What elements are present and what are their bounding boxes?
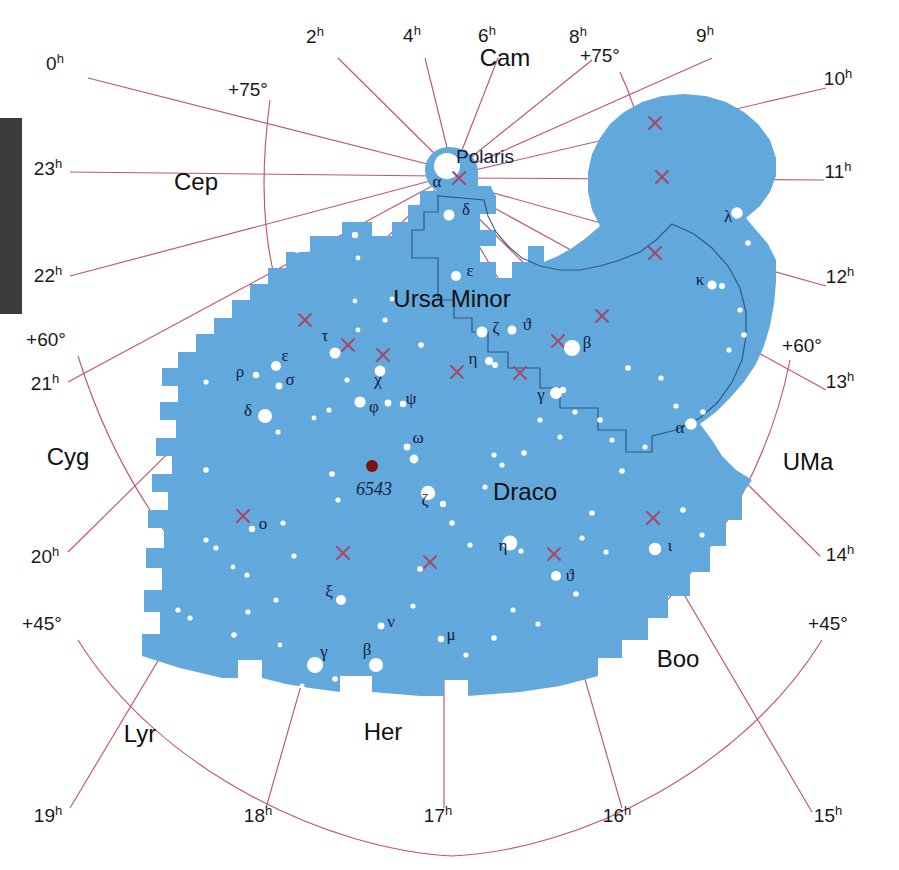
star-f31 [255, 670, 260, 675]
dec-45-left: +45° [22, 613, 62, 634]
star-dra-omicron [249, 526, 255, 532]
star-f04 [356, 256, 361, 261]
star-f55 [572, 409, 577, 414]
nebula-ngc6543-marker [366, 460, 378, 472]
star-dra-xi [336, 595, 346, 605]
star-dra-kappa [707, 280, 716, 289]
star-f61 [726, 347, 731, 352]
star-f09 [356, 328, 361, 333]
g-umi-theta: ϑ [523, 315, 532, 334]
star-f54 [597, 417, 603, 423]
star-chart-figure: 0h2h4h6h8h9h10h11h12h13h14h15h16h17h18h1… [0, 0, 899, 870]
con-cam: Cam [480, 44, 531, 71]
star-f24 [273, 597, 278, 602]
g-dra-iota: ι [668, 536, 673, 555]
star-dra-psi-a [385, 400, 392, 407]
star-f59 [737, 307, 742, 312]
star-f13 [275, 429, 280, 434]
star-f47 [573, 591, 579, 597]
g-dra-theta: ϑ [566, 566, 575, 585]
star-dra-beta [369, 658, 383, 672]
g-umi-zeta: ζ [492, 318, 499, 337]
g-dra-beta: β [363, 640, 372, 659]
dec-75-right: +75° [580, 45, 620, 66]
star-f33 [332, 676, 338, 682]
star-f28 [187, 615, 192, 620]
g-dra-nu: ν [387, 612, 395, 631]
star-f42 [518, 548, 523, 553]
star-f14 [203, 379, 208, 384]
star-dra-sigma [276, 383, 283, 390]
g-dra-zeta: ζ [421, 490, 428, 509]
g-dra-chi: χ [373, 370, 382, 389]
star-f49 [589, 510, 595, 516]
star-f06 [382, 317, 387, 322]
star-umi-beta [564, 340, 580, 356]
g-dra-kappa: κ [696, 270, 705, 289]
star-f57 [537, 417, 542, 422]
star-f03 [352, 232, 358, 238]
star-dra-lambda [731, 207, 743, 219]
g-dra-phi: φ [369, 397, 379, 416]
g-dra-xi: ξ [325, 582, 333, 601]
star-f16 [329, 471, 335, 477]
star-f29 [278, 643, 283, 648]
con-uma: UMa [783, 448, 834, 475]
star-f66 [699, 532, 704, 537]
g-umi-delta: δ [462, 200, 470, 219]
star-f52 [642, 444, 647, 449]
star-f02 [294, 247, 300, 253]
star-f60 [741, 332, 747, 338]
star-dra-alpha [685, 418, 697, 430]
star-f64 [673, 403, 678, 408]
proper-star-name-labels: Polaris [456, 146, 514, 167]
star-f11 [326, 407, 331, 412]
star-umi-epsilon [451, 271, 461, 281]
star-dra-tau [330, 348, 341, 359]
star-f10 [344, 377, 349, 382]
g-dra-lambda: λ [724, 207, 733, 226]
star-f30 [241, 667, 246, 672]
star-f46 [535, 621, 540, 626]
star-f21 [231, 565, 236, 570]
star-f37 [467, 542, 472, 547]
star-dra-rho [253, 372, 259, 378]
star-f45 [510, 607, 515, 612]
star-f20 [213, 545, 218, 550]
star-f58 [625, 365, 631, 371]
star-f50 [603, 549, 608, 554]
star-f22 [244, 572, 249, 577]
star-umi-eta [485, 357, 493, 365]
g-dra-eps: ε [281, 346, 288, 365]
star-f48 [579, 535, 584, 540]
g-dra-alpha: α [676, 418, 685, 437]
star-f56 [557, 434, 562, 439]
star-f23 [291, 553, 296, 558]
star-dra-kappa-b [719, 283, 725, 289]
g-umi-beta: β [583, 333, 592, 352]
g-umi-eta: η [469, 349, 478, 368]
star-f44 [491, 635, 497, 641]
g-dra-omicron: ο [259, 514, 268, 533]
star-umi-zeta [477, 327, 488, 338]
star-dra-theta [551, 571, 561, 581]
star-f08 [418, 342, 424, 348]
deep-sky-object-labels: 6543 [356, 479, 392, 499]
dec-60-right: +60° [782, 335, 822, 356]
g-dra-delta: δ [244, 401, 252, 420]
star-chart-canvas: 0h2h4h6h8h9h10h11h12h13h14h15h16h17h18h1… [0, 0, 899, 870]
star-f15 [203, 467, 209, 473]
star-f38 [482, 484, 487, 489]
star-f32 [299, 683, 304, 688]
star-f41 [521, 450, 527, 456]
g-dra-psi: ψ [406, 389, 417, 408]
star-umi-gamma-b [560, 387, 566, 393]
page-margin-bar [0, 118, 22, 314]
star-umi-theta [508, 326, 517, 335]
star-umi-delta [444, 210, 455, 221]
star-dra-epsilon [271, 361, 281, 371]
g-umi-gamma: γ [536, 385, 545, 404]
star-f53 [609, 437, 614, 442]
star-dra-zeta-b [440, 501, 446, 507]
g-dra-mu: μ [446, 625, 455, 644]
